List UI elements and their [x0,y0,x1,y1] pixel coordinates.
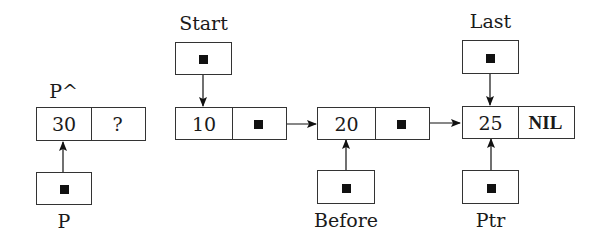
pointer-dot-icon [342,184,351,193]
p-node-caption: P^ [36,80,91,102]
node-next-nil: NIL [517,107,574,138]
pointer-before-box [317,170,375,204]
pointer-dot-icon [254,120,263,129]
node-value: 20 [318,108,376,139]
node-value: 30 [37,108,92,140]
node-next: ? [90,108,145,140]
pointer-dot-icon [397,120,406,129]
pointer-p-label: P [36,210,92,232]
node-25: 25 NIL [462,106,575,139]
node-p: 30 ? [36,107,146,141]
pointer-start-label: Start [175,12,232,34]
node-10: 10 [175,107,287,140]
pointer-last-label: Last [462,10,519,32]
pointer-dot-icon [199,55,208,64]
pointer-start-box [175,42,232,75]
pointer-last-box [462,40,519,74]
pointer-ptr-box [462,170,519,204]
pointer-p-box [36,172,92,205]
node-value: 10 [176,108,233,139]
pointer-dot-icon [487,184,496,193]
node-next [374,108,429,139]
pointer-dot-icon [486,54,495,63]
node-20: 20 [317,107,430,140]
node-value: 25 [463,107,519,138]
pointer-before-label: Before [307,209,385,231]
pointer-ptr-label: Ptr [462,209,519,231]
pointer-dot-icon [60,185,69,194]
node-next [231,108,286,139]
